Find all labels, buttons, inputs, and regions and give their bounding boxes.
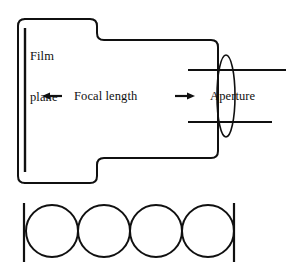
aperture-circle [182, 205, 234, 257]
camera-optics-diagram: Film plane Focal length Aperture [0, 0, 290, 271]
film-plane-label-line1: Film [30, 50, 58, 64]
aperture-circle [130, 205, 182, 257]
right-arrow-icon [175, 92, 195, 99]
aperture-label: Aperture [210, 90, 255, 104]
film-plane-label: Film plane [30, 23, 58, 131]
aperture-circle [78, 205, 130, 257]
focal-length-label: Focal length [74, 90, 137, 104]
film-plane-label-line2: plane [30, 91, 58, 105]
aperture-circle [26, 205, 78, 257]
